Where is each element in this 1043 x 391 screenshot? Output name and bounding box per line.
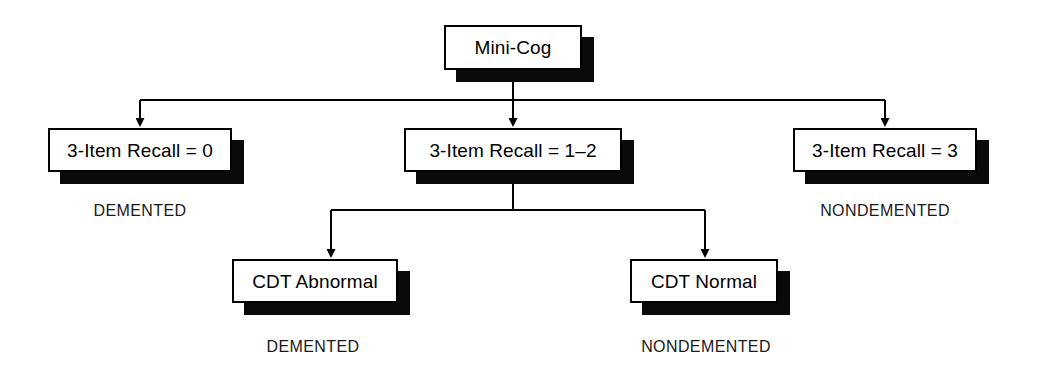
cdt-normal-box[interactable]: CDT Normal bbox=[630, 259, 778, 303]
cdt-normal-box-label: CDT Normal bbox=[651, 272, 757, 291]
recall-1-2-box[interactable]: 3-Item Recall = 1–2 bbox=[404, 128, 622, 172]
recall-3-box-label: 3-Item Recall = 3 bbox=[812, 141, 958, 160]
mini-cog-flowchart: Mini-Cog 3-Item Recall = 0 DEMENTED 3-It… bbox=[0, 0, 1043, 391]
mini-cog-box[interactable]: Mini-Cog bbox=[444, 25, 582, 70]
recall-1-2-box-label: 3-Item Recall = 1–2 bbox=[429, 141, 596, 160]
recall-0-outcome-label: DEMENTED bbox=[43, 202, 237, 220]
recall-0-box[interactable]: 3-Item Recall = 0 bbox=[48, 128, 232, 172]
cdt-abnormal-box-label: CDT Abnormal bbox=[252, 272, 377, 291]
recall-3-outcome-label: NONDEMENTED bbox=[778, 202, 992, 220]
recall-3-box[interactable]: 3-Item Recall = 3 bbox=[793, 128, 977, 172]
mini-cog-box-label: Mini-Cog bbox=[475, 38, 552, 57]
recall-0-box-label: 3-Item Recall = 0 bbox=[67, 141, 213, 160]
cdt-abnormal-box[interactable]: CDT Abnormal bbox=[232, 259, 398, 303]
cdt-normal-outcome-label: NONDEMENTED bbox=[609, 338, 803, 356]
cdt-abnormal-outcome-label: DEMENTED bbox=[216, 338, 410, 356]
